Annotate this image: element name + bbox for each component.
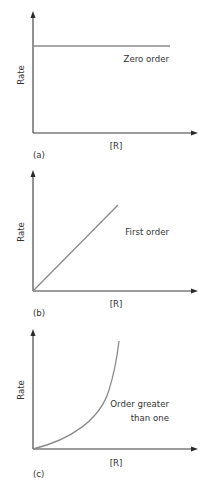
x-axis-arrow-icon xyxy=(191,447,198,452)
x-axis-label: [R] xyxy=(110,458,123,468)
panel-b-first-order: Rate [R] First order (b) xyxy=(0,160,213,322)
series-annotation: First order xyxy=(125,227,169,237)
first-order-line xyxy=(33,205,118,291)
panel-a-zero-order: Rate [R] Zero order (a) xyxy=(0,0,213,162)
x-axis-label: [R] xyxy=(110,299,123,309)
y-axis-label: Rate xyxy=(16,65,26,85)
series-annotation-line2: than one xyxy=(131,413,169,423)
panel-c-higher-order: Rate [R] Order greater than one (c) xyxy=(0,320,213,485)
y-axis-label: Rate xyxy=(16,222,26,242)
higher-order-curve xyxy=(33,341,119,449)
panel-label: (b) xyxy=(33,308,45,318)
y-axis-label: Rate xyxy=(16,380,26,400)
x-axis-label: [R] xyxy=(110,141,123,151)
panel-label: (c) xyxy=(33,469,44,479)
series-annotation: Zero order xyxy=(124,54,170,64)
x-axis-arrow-icon xyxy=(191,131,198,136)
x-axis-arrow-icon xyxy=(191,289,198,294)
y-axis-arrow-icon xyxy=(31,170,36,177)
reaction-order-figure: Rate [R] Zero order (a) Rate [R] First o… xyxy=(0,0,213,485)
series-annotation-line1: Order greater xyxy=(110,399,169,409)
panel-label: (a) xyxy=(33,150,45,160)
y-axis-arrow-icon xyxy=(31,11,36,18)
y-axis-arrow-icon xyxy=(31,329,36,336)
